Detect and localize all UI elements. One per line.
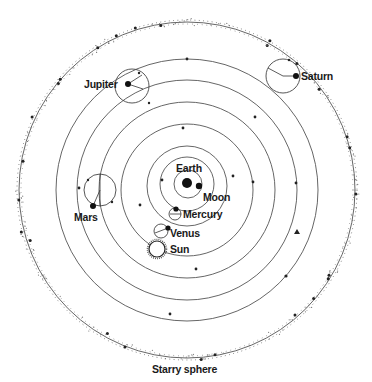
star-dot xyxy=(29,239,32,242)
star-dot xyxy=(21,234,22,235)
star-dot xyxy=(43,275,44,276)
saturn-planet xyxy=(293,73,299,79)
star-dot xyxy=(289,319,290,320)
star-dot xyxy=(354,156,355,157)
star-dot xyxy=(165,358,166,359)
star-dot xyxy=(318,88,321,91)
star-dot xyxy=(60,296,61,297)
star-dot xyxy=(249,345,250,346)
star-dot xyxy=(178,22,179,23)
star-dot xyxy=(21,198,22,199)
jupiter-epicycle xyxy=(115,69,149,103)
star-dot xyxy=(294,314,297,317)
star-dot xyxy=(348,146,351,149)
mars-group: Mars xyxy=(74,174,116,223)
star-dot xyxy=(173,24,174,25)
star-dot xyxy=(57,82,60,85)
star-dot xyxy=(226,23,227,24)
star-dot xyxy=(44,276,45,277)
star-dot xyxy=(214,353,217,356)
star-dot xyxy=(108,42,109,43)
star-dot xyxy=(327,281,328,282)
star-dot xyxy=(327,95,328,96)
star-dot xyxy=(305,311,306,312)
star-dot xyxy=(26,248,27,249)
star-dot xyxy=(328,97,329,98)
star-dot xyxy=(218,23,219,24)
moon-label: Moon xyxy=(203,191,230,203)
star-dot xyxy=(181,358,182,359)
star-dot xyxy=(223,353,224,354)
star-dot xyxy=(191,18,192,19)
mercury-planet xyxy=(173,206,178,211)
star-dot xyxy=(329,271,330,272)
star-dot xyxy=(126,344,127,345)
jupiter-label: Jupiter xyxy=(84,78,118,90)
mercury-label: Mercury xyxy=(183,208,223,220)
star-dot xyxy=(353,197,354,198)
star-dot xyxy=(346,143,347,144)
mars-planet xyxy=(90,203,96,209)
star-dot xyxy=(357,184,358,185)
star-dot xyxy=(328,274,331,277)
star-dot xyxy=(96,46,99,49)
star-dot xyxy=(106,332,109,335)
star-dot xyxy=(229,25,230,26)
star-dot xyxy=(95,45,96,46)
star-dot xyxy=(268,332,269,333)
star-dot xyxy=(22,160,25,163)
star-dot xyxy=(115,34,118,37)
star-dot xyxy=(350,149,351,150)
star-dot xyxy=(356,198,357,199)
star-dot xyxy=(320,93,321,94)
jupiter-deferent xyxy=(77,80,297,300)
star-dot xyxy=(159,354,160,355)
star-dot xyxy=(159,24,162,27)
deferent-orbits xyxy=(56,59,318,321)
star-dot xyxy=(279,334,280,335)
star-dot xyxy=(342,247,343,248)
star-dot xyxy=(282,329,283,330)
star-dot xyxy=(27,240,28,241)
earth-moon-group: Earth Moon xyxy=(176,162,230,203)
star-dot xyxy=(113,41,114,42)
star-dot xyxy=(355,179,356,180)
jupiter-planet xyxy=(125,81,131,87)
saturn-label: Saturn xyxy=(301,70,333,82)
saturn-group: Saturn xyxy=(266,59,333,93)
star-dot xyxy=(209,354,210,355)
star-dot xyxy=(53,89,54,90)
star-dot xyxy=(266,45,267,46)
star-dot xyxy=(104,39,105,40)
star-dot xyxy=(31,251,32,252)
star-dot xyxy=(59,78,62,81)
star-dot xyxy=(353,174,354,175)
jupiter-group: Jupiter xyxy=(84,69,150,104)
star-dot xyxy=(26,228,27,229)
star-dot xyxy=(329,270,330,271)
star-dot xyxy=(69,74,70,75)
star-dot xyxy=(22,236,23,237)
star-dot xyxy=(268,339,269,340)
star-dot xyxy=(17,199,20,202)
star-dot xyxy=(305,307,306,308)
star-dot xyxy=(100,334,101,335)
star-dot xyxy=(194,25,195,26)
star-dot xyxy=(292,319,293,320)
earth-label: Earth xyxy=(176,162,202,174)
star-dot xyxy=(152,350,153,351)
star-dot xyxy=(352,220,353,221)
star-dot xyxy=(179,21,180,22)
star-dot xyxy=(24,226,25,227)
star-dot xyxy=(42,278,43,279)
star-dot xyxy=(311,307,312,308)
star-dot xyxy=(24,231,25,232)
star-dot xyxy=(22,202,23,203)
star-dot xyxy=(22,155,23,156)
sun-label: Sun xyxy=(170,243,189,255)
star-dot xyxy=(164,26,165,27)
venus-group: Venus xyxy=(154,224,200,239)
star-dot xyxy=(20,231,23,234)
star-dot xyxy=(200,358,203,361)
starry-sphere-label: Starry sphere xyxy=(152,363,217,375)
